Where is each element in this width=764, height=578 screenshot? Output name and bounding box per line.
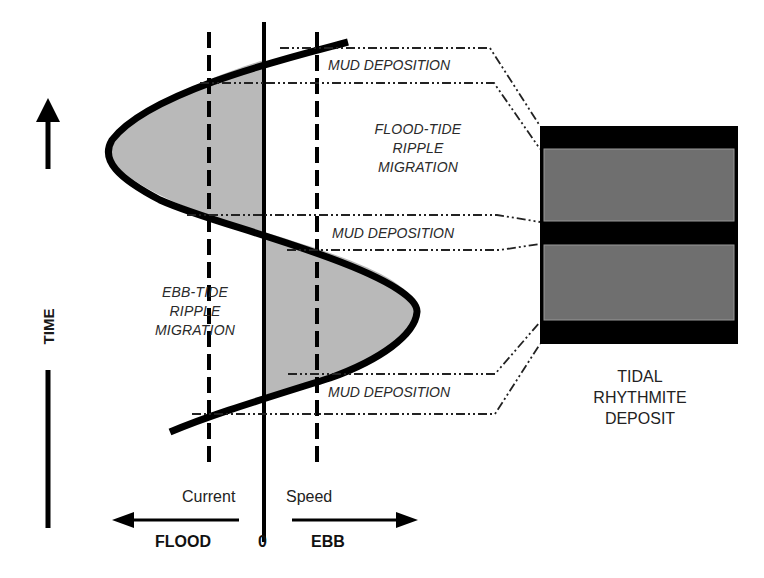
- flood-label: FLOOD: [155, 533, 211, 551]
- speed-label: Speed: [286, 488, 332, 506]
- mud-deposition-label-2: MUD DEPOSITION: [332, 225, 454, 241]
- deposit-title: TIDAL RHYTHMITE DEPOSIT: [570, 366, 710, 429]
- rhythmite-deposit: [540, 126, 738, 344]
- flood-tide-line-3: MIGRATION: [348, 158, 488, 177]
- deposit-title-line-2: RHYTHMITE: [570, 387, 710, 408]
- flood-shade: [110, 60, 264, 232]
- ebb-tide-label: EBB-TIDE RIPPLE MIGRATION: [135, 283, 255, 340]
- flood-tide-label: FLOOD-TIDE RIPPLE MIGRATION: [348, 120, 488, 177]
- mud-deposition-label-1: MUD DEPOSITION: [328, 57, 450, 73]
- flood-tide-line-2: RIPPLE: [348, 139, 488, 158]
- ebb-label: EBB: [311, 533, 345, 551]
- mud-deposition-label-3: MUD DEPOSITION: [328, 384, 450, 400]
- zero-label: 0: [258, 533, 267, 551]
- ebb-tide-line-2: RIPPLE: [135, 302, 255, 321]
- ebb-tide-line-1: EBB-TIDE: [135, 283, 255, 302]
- sand-layer-upper: [544, 149, 734, 221]
- time-axis-label: TIME: [40, 307, 57, 347]
- sand-layer-lower: [544, 245, 734, 320]
- current-label: Current: [182, 488, 235, 506]
- deposit-title-line-3: DEPOSIT: [570, 408, 710, 429]
- ebb-tide-line-3: MIGRATION: [135, 321, 255, 340]
- flood-arrow-head: [112, 512, 134, 528]
- flood-tide-line-1: FLOOD-TIDE: [348, 120, 488, 139]
- connector-line-4: [287, 244, 540, 250]
- tidal-rhythmite-diagram: [0, 0, 764, 578]
- deposit-title-line-1: TIDAL: [570, 366, 710, 387]
- ebb-arrow-head: [396, 512, 418, 528]
